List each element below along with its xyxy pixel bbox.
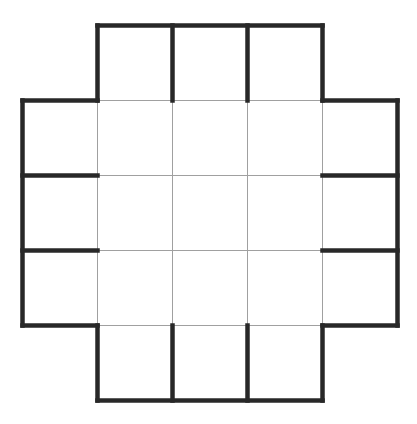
grid-figure-svg: [0, 0, 417, 424]
plus-shaped-grid-figure: [0, 0, 417, 424]
